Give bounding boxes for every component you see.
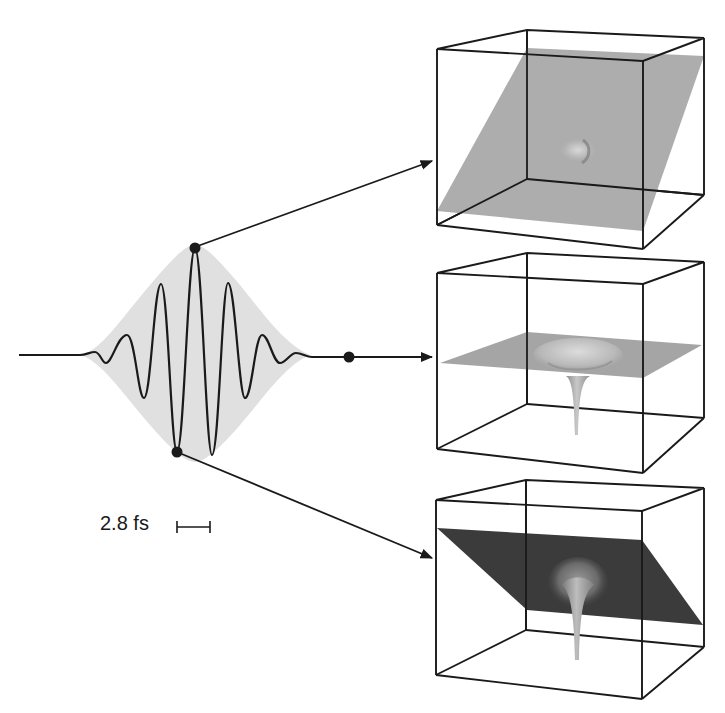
coulomb-dip (556, 136, 600, 164)
field-maximum-marker (190, 243, 201, 254)
scale-bar-label: 2.8 fs (100, 511, 149, 535)
coulomb-funnel (562, 578, 594, 661)
panel-middle (437, 253, 704, 473)
arrow-to-bottom-panel (177, 452, 432, 558)
arrow-to-top-panel (195, 161, 432, 247)
pulse-envelope (80, 245, 310, 462)
figure-canvas (0, 0, 725, 713)
panel-top (437, 30, 704, 249)
time-scale-bar (177, 521, 210, 533)
coulomb-funnel (566, 376, 590, 435)
panel-bottom (436, 480, 704, 699)
laser-pulse (19, 245, 432, 462)
field-minimum-marker (172, 447, 183, 458)
field-zero-marker (344, 352, 355, 363)
